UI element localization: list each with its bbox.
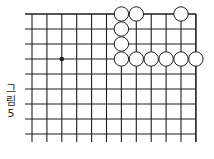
figure-caption: 그 림 5 (3, 84, 19, 120)
white-stone-icon (129, 52, 143, 66)
white-stone-icon (174, 7, 188, 21)
caption-char-3: 5 (3, 108, 19, 120)
white-stone-icon (129, 7, 143, 21)
white-stone-icon (114, 37, 128, 51)
white-stone-icon (174, 52, 188, 66)
white-stone-icon (114, 7, 128, 21)
go-board-diagram (0, 0, 214, 159)
white-stone-icon (144, 52, 158, 66)
board-grid (25, 14, 196, 142)
white-stone-icon (114, 22, 128, 36)
white-stones (114, 7, 203, 66)
white-stone-icon (159, 52, 173, 66)
star-point-icon (60, 57, 65, 62)
white-stone-icon (114, 52, 128, 66)
star-points (60, 57, 65, 62)
white-stone-icon (189, 52, 203, 66)
